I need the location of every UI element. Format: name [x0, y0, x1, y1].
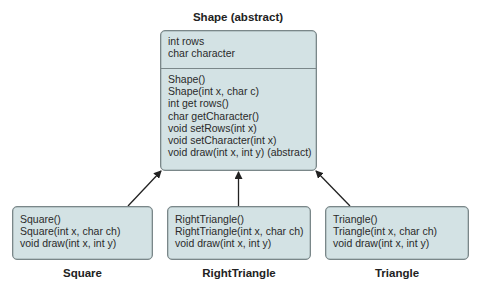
triangle-class-box: Triangle() Triangle(int x, char ch) void…	[325, 206, 469, 260]
righttriangle-class-title: RightTriangle	[167, 267, 311, 279]
method-righttriangle-draw: void draw(int x, int y)	[175, 237, 303, 249]
method-triangle-draw: void draw(int x, int y)	[333, 237, 461, 249]
method-triangle-default: Triangle()	[333, 213, 461, 225]
method-square-draw: void draw(int x, int y)	[20, 237, 145, 249]
righttriangle-methods-section: RightTriangle() RightTriangle(int x, cha…	[168, 207, 310, 254]
triangle-class-title: Triangle	[325, 267, 469, 279]
method-triangle-ctor: Triangle(int x, char ch)	[333, 225, 461, 237]
arrow-triangle-to-shape	[316, 171, 350, 206]
method-square-default: Square()	[20, 213, 145, 225]
square-methods-section: Square() Square(int x, char ch) void dra…	[13, 207, 152, 254]
triangle-methods-section: Triangle() Triangle(int x, char ch) void…	[326, 207, 468, 254]
square-class-title: Square	[12, 267, 153, 279]
square-class-box: Square() Square(int x, char ch) void dra…	[12, 206, 153, 260]
method-square-ctor: Square(int x, char ch)	[20, 225, 145, 237]
method-righttriangle-default: RightTriangle()	[175, 213, 303, 225]
method-righttriangle-ctor: RightTriangle(int x, char ch)	[175, 225, 303, 237]
arrow-square-to-shape	[128, 171, 161, 206]
righttriangle-class-box: RightTriangle() RightTriangle(int x, cha…	[167, 206, 311, 260]
